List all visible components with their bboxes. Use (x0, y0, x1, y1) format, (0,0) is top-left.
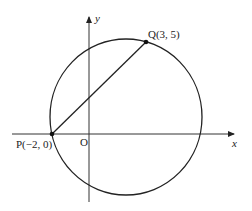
x-axis-label: x (231, 137, 237, 149)
segment-pq (52, 42, 146, 134)
point-q (144, 40, 149, 45)
y-axis-label: y (94, 12, 100, 24)
origin-label: O (80, 136, 88, 148)
coordinate-diagram: P(−2, 0) Q(3, 5) O x y (0, 0, 252, 211)
label-p: P(−2, 0) (16, 138, 52, 151)
label-q: Q(3, 5) (148, 28, 180, 41)
point-p (50, 132, 55, 137)
